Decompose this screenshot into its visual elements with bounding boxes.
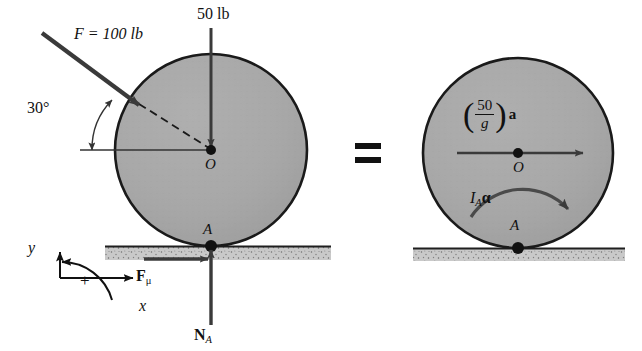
applied-force-arrow bbox=[42, 33, 139, 105]
angular-acceleration-symbol: α bbox=[482, 189, 491, 206]
positive-rotation-label: + bbox=[80, 272, 90, 289]
left-paren: ( bbox=[463, 101, 474, 129]
right-center-point bbox=[513, 148, 523, 158]
left-ground bbox=[105, 247, 331, 261]
fraction-denominator: g bbox=[479, 116, 491, 131]
normal-force-label: NA bbox=[194, 327, 212, 346]
left-center-point bbox=[206, 145, 216, 155]
friction-force-symbol: F bbox=[136, 267, 146, 284]
normal-force-subscript: A bbox=[206, 334, 212, 345]
angle-arc bbox=[92, 100, 112, 150]
fraction-numerator: 50 bbox=[475, 98, 494, 113]
inertia-moment-label: IAα bbox=[470, 190, 491, 209]
friction-force-label: Fμ bbox=[136, 268, 151, 287]
weight-force-label: 50 lb bbox=[197, 6, 229, 22]
applied-force-label: F = 100 lb bbox=[74, 26, 143, 42]
acceleration-vector-symbol: a bbox=[509, 107, 517, 122]
mass-fraction: 50 g bbox=[475, 98, 494, 131]
right-contact-label: A bbox=[510, 218, 519, 233]
inertia-force-label: ( 50 g ) a bbox=[463, 98, 516, 131]
normal-force-symbol: N bbox=[194, 326, 206, 343]
friction-force-subscript: μ bbox=[146, 275, 152, 286]
dynamics-figure: 50 lb F = 100 lb 30° O A Fμ NA x y + ( 5… bbox=[0, 0, 642, 351]
right-center-label: O bbox=[513, 160, 524, 175]
equals-sign bbox=[355, 143, 381, 163]
figure-canvas bbox=[0, 0, 642, 351]
angle-label: 30° bbox=[27, 100, 49, 116]
x-axis-label: x bbox=[139, 298, 146, 314]
left-contact-label: A bbox=[203, 222, 212, 237]
right-paren: ) bbox=[495, 101, 506, 129]
y-axis-label: y bbox=[28, 240, 35, 256]
left-center-label: O bbox=[205, 157, 216, 172]
right-contact-point bbox=[512, 242, 524, 254]
